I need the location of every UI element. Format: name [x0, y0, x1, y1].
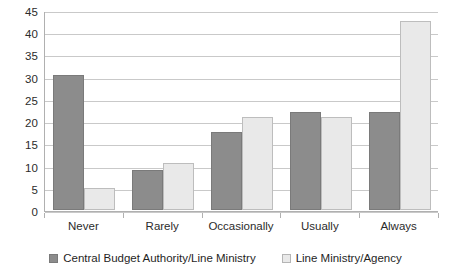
- legend-item[interactable]: Line Ministry/Agency: [282, 252, 402, 264]
- y-axis-tick-labels: 051015202530354045: [0, 12, 38, 212]
- y-axis-tick-label: 25: [4, 95, 38, 107]
- x-axis-label: Rarely: [146, 220, 179, 232]
- legend-swatch-icon: [282, 254, 291, 263]
- bar[interactable]: [211, 132, 242, 210]
- bar[interactable]: [321, 117, 352, 210]
- x-axis-label: Usually: [301, 220, 339, 232]
- legend-item[interactable]: Central Budget Authority/Line Ministry: [49, 252, 255, 264]
- bar[interactable]: [242, 117, 273, 210]
- bar-group: [132, 11, 194, 210]
- legend-label: Central Budget Authority/Line Ministry: [63, 252, 255, 264]
- bar[interactable]: [290, 112, 321, 210]
- x-axis-label: Always: [380, 220, 416, 232]
- x-axis-tick: [280, 213, 281, 218]
- y-axis-tick-label: 30: [4, 73, 38, 85]
- y-axis-tick-label: 20: [4, 117, 38, 129]
- bar-group: [53, 11, 115, 210]
- bar[interactable]: [84, 188, 115, 210]
- bar[interactable]: [163, 163, 194, 210]
- chart-legend: Central Budget Authority/Line MinistryLi…: [0, 252, 451, 264]
- legend-swatch-icon: [49, 254, 58, 263]
- bar-group: [369, 11, 431, 210]
- bars-layer: [45, 12, 438, 211]
- bar-chart: 051015202530354045 NeverRarelyOccasional…: [0, 0, 451, 280]
- bar[interactable]: [132, 170, 163, 210]
- y-axis-tick-label: 5: [4, 184, 38, 196]
- bar[interactable]: [369, 112, 400, 210]
- y-axis-tick-label: 10: [4, 162, 38, 174]
- x-axis-tick: [359, 213, 360, 218]
- plot-area: [44, 12, 438, 212]
- x-axis-tick: [202, 213, 203, 218]
- x-axis: NeverRarelyOccasionallyUsuallyAlways: [44, 213, 438, 241]
- x-axis-label: Occasionally: [208, 220, 273, 232]
- y-axis-tick-label: 15: [4, 139, 38, 151]
- x-axis-tick: [123, 213, 124, 218]
- x-axis-tick: [44, 213, 45, 218]
- y-axis-tick-label: 45: [4, 6, 38, 18]
- bar-group: [211, 11, 273, 210]
- x-axis-label: Never: [68, 220, 99, 232]
- x-axis-tick: [438, 213, 439, 218]
- bar[interactable]: [53, 75, 84, 210]
- y-axis-tick-label: 0: [4, 206, 38, 218]
- bar[interactable]: [400, 21, 431, 210]
- plot-area-wrapper: [44, 12, 438, 212]
- bar-group: [290, 11, 352, 210]
- y-axis-tick-label: 35: [4, 50, 38, 62]
- y-axis-tick-label: 40: [4, 28, 38, 40]
- legend-label: Line Ministry/Agency: [296, 252, 402, 264]
